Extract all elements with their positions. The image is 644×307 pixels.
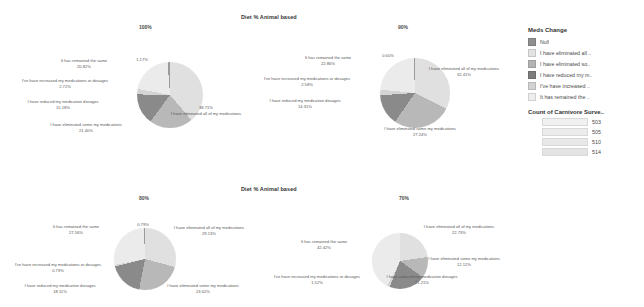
size-legend-item-510[interactable]: 510 — [528, 137, 644, 147]
size-value-514: 514 — [592, 149, 601, 155]
legend-count-carnivore: Count of Carnivore Surve.. 503 505 510 5… — [528, 109, 644, 157]
pie-label-remained-70: It has remained the same 42.42% — [284, 239, 364, 251]
size-value-503: 503 — [592, 119, 601, 125]
pie-label-increased-100: I've have increased my medications or do… — [5, 78, 125, 90]
legend-swatch-eliminated-some — [528, 60, 536, 68]
legend-item-eliminated-all[interactable]: I have eliminated all .. — [528, 47, 644, 58]
legend-item-reduced[interactable]: I have reduced my m.. — [528, 69, 644, 80]
pie-label-all-90: I have eliminated all of my medications … — [408, 66, 520, 78]
legend-count-title: Count of Carnivore Surve.. — [528, 109, 644, 115]
panel-pct-90: 90% — [398, 24, 408, 30]
pie-panel-70[interactable]: 70% It has remained the same 42.42% I've… — [260, 180, 520, 307]
legend-label-null: Null — [540, 39, 549, 45]
pie-label-remained-80: It has remained the same 27.56% — [36, 224, 116, 236]
pie-wrap-100 — [137, 62, 203, 128]
size-legend-item-514[interactable]: 514 — [528, 147, 644, 157]
dashboard-root: Diet % Animal based 100% 1.17% It has re… — [0, 0, 644, 307]
panel-pct-100: 100% — [139, 24, 152, 30]
size-swatch-503 — [542, 118, 588, 126]
legend-title: Meds Change — [528, 27, 644, 33]
pie-label-reduced-80: I have reduced my medication dosages 18.… — [5, 283, 115, 295]
pie-label-increased-70: I've have increased my medications or do… — [257, 274, 377, 286]
legend-swatch-reduced — [528, 71, 536, 79]
pie-label-all-100: 38.71% I have eliminated all of my medic… — [153, 105, 259, 117]
pie-label-reduced-100: I have reduced my medication dosages 15.… — [8, 99, 118, 111]
legend-label-eliminated-all: I have eliminated all .. — [540, 50, 591, 56]
pie-label-remained-90: It has remained the same 22.86% — [288, 55, 368, 67]
legend-swatch-remained — [528, 93, 536, 101]
pie-label-null-90: 0.60% — [368, 53, 408, 59]
pie-label-some-100: I have eliminated some my medications 21… — [31, 122, 141, 134]
legend-swatch-increased — [528, 82, 536, 90]
panel-pct-70: 70% — [399, 195, 409, 201]
pie-chart-100[interactable] — [137, 62, 203, 128]
legend-label-remained: It has remained the .. — [540, 94, 590, 100]
size-legend-item-505[interactable]: 505 — [528, 127, 644, 137]
pie-panel-80[interactable]: Diet % Animal based 80% 0.79% It has rem… — [0, 180, 260, 307]
pie-label-some-90: I have eliminated some my medications 27… — [365, 126, 475, 138]
pie-chart-80[interactable] — [114, 228, 176, 290]
pie-panel-100[interactable]: Diet % Animal based 100% 1.17% It has re… — [0, 0, 260, 180]
pie-label-increased-80: I've have increased my medications or do… — [0, 262, 118, 274]
size-swatch-505 — [542, 128, 588, 136]
visualization-area: Diet % Animal based 100% 1.17% It has re… — [0, 0, 520, 307]
pie-label-all-70: I have eliminated all of my medications … — [403, 224, 515, 236]
pie-label-some-80: I have eliminated some my medications 23… — [148, 283, 258, 295]
pie-label-some-70: I have eliminated some my medications 12… — [409, 256, 519, 268]
size-legend-item-503[interactable]: 503 — [528, 117, 644, 127]
legend-item-null[interactable]: Null — [528, 36, 644, 47]
pie-label-null-100: 1.17% — [122, 57, 162, 63]
pie-label-all-80: I have eliminated all of my medications … — [154, 225, 264, 237]
legend-item-increased[interactable]: I've have increased .. — [528, 80, 644, 91]
pie-label-remained-100: It has remained the same 20.82% — [44, 58, 124, 70]
size-swatch-514 — [542, 148, 588, 156]
size-value-505: 505 — [592, 129, 601, 135]
legend-meds-change: Meds Change Null I have eliminated all .… — [528, 27, 644, 157]
legend-label-eliminated-some: I have eliminated so.. — [540, 61, 590, 67]
pie-label-increased-90: I've have increased my medications or do… — [247, 76, 367, 88]
pie-label-reduced-90: I have reduced my medication dosages 14.… — [250, 98, 360, 110]
legend-label-increased: I've have increased .. — [540, 83, 590, 89]
legend-item-remained[interactable]: It has remained the .. — [528, 91, 644, 102]
legend-swatch-null — [528, 38, 536, 46]
pie-label-reduced-70: I have reduced my medication dosages 21.… — [367, 274, 477, 286]
legend-swatch-eliminated-all — [528, 49, 536, 57]
panel-pct-80: 80% — [139, 195, 149, 201]
size-swatch-510 — [542, 138, 588, 146]
legend-item-eliminated-some[interactable]: I have eliminated so.. — [528, 58, 644, 69]
size-value-510: 510 — [592, 139, 601, 145]
legend-label-reduced: I have reduced my m.. — [540, 72, 592, 78]
pie-wrap-80 — [114, 228, 176, 290]
pie-panel-90[interactable]: 90% 0.60% It has remained the same 22.86… — [260, 0, 520, 180]
